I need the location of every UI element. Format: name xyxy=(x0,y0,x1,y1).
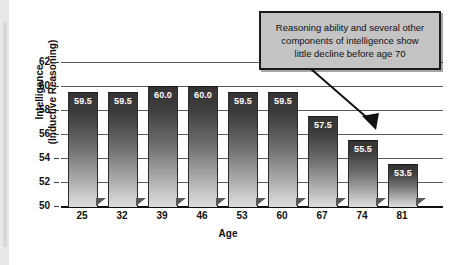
bar: 60.0 xyxy=(148,86,178,207)
bar-value-label: 59.5 xyxy=(269,96,297,106)
callout-line-2: components of intelligence show xyxy=(281,34,418,47)
y-tick-mark xyxy=(54,158,59,159)
bar-base-shadow xyxy=(216,198,226,206)
bar-value-label: 53.5 xyxy=(389,168,417,178)
x-tick-label: 74 xyxy=(342,210,382,221)
y-tick-label: 62 xyxy=(24,56,50,67)
bar: 53.5 xyxy=(388,164,418,207)
bar-base-shadow xyxy=(96,198,106,206)
bar-value-label: 59.5 xyxy=(109,96,137,106)
callout-line-3: little decline before age 70 xyxy=(295,47,406,60)
x-tick-label: 39 xyxy=(142,210,182,221)
bar-value-label: 60.0 xyxy=(189,90,217,100)
x-tick-label: 25 xyxy=(62,210,102,221)
y-tick-mark xyxy=(54,134,59,135)
y-tick-mark xyxy=(54,62,59,63)
bar-value-label: 59.5 xyxy=(69,96,97,106)
x-tick-label: 81 xyxy=(382,210,422,221)
bar-value-label: 55.5 xyxy=(349,144,377,154)
bar-value-label: 57.5 xyxy=(309,120,337,130)
y-tick-mark xyxy=(54,206,59,207)
x-tick-label: 46 xyxy=(182,210,222,221)
x-tick-label: 53 xyxy=(222,210,262,221)
bar: 55.5 xyxy=(348,140,378,207)
x-axis-title: Age xyxy=(0,228,456,239)
y-tick-label: 58 xyxy=(24,104,50,115)
bar-value-label: 60.0 xyxy=(149,90,177,100)
bar: 59.5 xyxy=(228,92,258,207)
bar-value-label: 59.5 xyxy=(229,96,257,106)
y-tick-mark xyxy=(54,182,59,183)
bar: 60.0 xyxy=(188,86,218,207)
bar-base-shadow xyxy=(256,198,266,206)
y-tick-label: 52 xyxy=(24,176,50,187)
page-gutter-strip xyxy=(0,0,9,265)
bar-base-shadow xyxy=(416,198,426,206)
y-tick-mark xyxy=(54,86,59,87)
gridline xyxy=(61,86,443,87)
x-tick-label: 60 xyxy=(262,210,302,221)
bar: 59.5 xyxy=(108,92,138,207)
page-gutter-inner xyxy=(3,22,7,247)
x-tick-label: 67 xyxy=(302,210,342,221)
callout-line-1: Reasoning ability and several other xyxy=(276,21,424,34)
bar-base-shadow xyxy=(336,198,346,206)
bar-base-shadow xyxy=(376,198,386,206)
callout-box: Reasoning ability and several other comp… xyxy=(259,11,441,70)
y-tick-mark xyxy=(54,110,59,111)
figure-page: Intelligence (Inductive Reasoning) 62605… xyxy=(0,0,456,265)
x-tick-label: 32 xyxy=(102,210,142,221)
bar-base-shadow xyxy=(296,198,306,206)
bar: 59.5 xyxy=(68,92,98,207)
bar: 59.5 xyxy=(268,92,298,207)
y-tick-label: 60 xyxy=(24,80,50,91)
y-tick-label: 50 xyxy=(24,200,50,211)
y-tick-label: 56 xyxy=(24,128,50,139)
bar: 57.5 xyxy=(308,116,338,207)
y-axis-title: Intelligence (Inductive Reasoning) xyxy=(31,17,61,167)
y-tick-label: 54 xyxy=(24,152,50,163)
bar-base-shadow xyxy=(176,198,186,206)
bar-base-shadow xyxy=(136,198,146,206)
